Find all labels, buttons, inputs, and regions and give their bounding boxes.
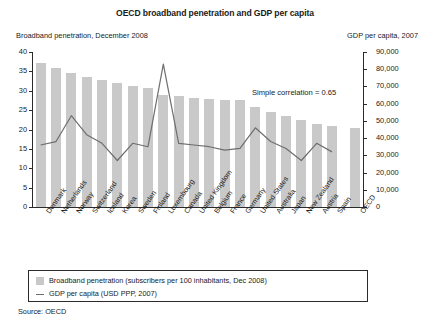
right-axis-line bbox=[363, 52, 364, 207]
right-tick-mark bbox=[364, 121, 367, 122]
left-tick-mark bbox=[29, 52, 32, 53]
right-tick-mark bbox=[364, 138, 367, 139]
right-tick-label: 50,000 bbox=[376, 117, 399, 124]
left-tick-label: 40 bbox=[1, 48, 27, 55]
right-tick-label: 0 bbox=[376, 203, 380, 210]
legend-item-line: GDP per capita (USD PPP, 2007) bbox=[36, 288, 360, 299]
left-tick-label: 20 bbox=[1, 126, 27, 133]
left-tick-label: 0 bbox=[1, 203, 27, 210]
right-tick-mark bbox=[364, 69, 367, 70]
left-tick-mark bbox=[29, 130, 32, 131]
legend-item-bars: Broadband penetration (subscribers per 1… bbox=[36, 275, 360, 286]
right-tick-label: 70,000 bbox=[376, 82, 399, 89]
right-tick-mark bbox=[364, 155, 367, 156]
left-tick-mark bbox=[29, 71, 32, 72]
right-tick-label: 30,000 bbox=[376, 151, 399, 158]
left-tick-label: 30 bbox=[1, 87, 27, 94]
right-tick-mark bbox=[364, 190, 367, 191]
left-tick-mark bbox=[29, 149, 32, 150]
left-tick-label: 5 bbox=[1, 184, 27, 191]
right-tick-label: 10,000 bbox=[376, 186, 399, 193]
legend-label-line: GDP per capita (USD PPP, 2007) bbox=[49, 289, 157, 298]
right-tick-label: 20,000 bbox=[376, 169, 399, 176]
right-tick-mark bbox=[364, 173, 367, 174]
left-tick-label: 10 bbox=[1, 164, 27, 171]
left-tick-mark bbox=[29, 91, 32, 92]
left-tick-mark bbox=[29, 110, 32, 111]
right-tick-mark bbox=[364, 86, 367, 87]
right-tick-mark bbox=[364, 52, 367, 53]
left-tick-mark bbox=[29, 168, 32, 169]
legend-bar-swatch-icon bbox=[36, 277, 44, 285]
x-axis-labels: DenmarkNetherlandsNorwaySwitzerlandIcela… bbox=[33, 208, 373, 266]
right-tick-label: 90,000 bbox=[376, 48, 399, 55]
chart-container: OECD broadband penetration and GDP per c… bbox=[0, 0, 430, 324]
legend-label-bars: Broadband penetration (subscribers per 1… bbox=[49, 276, 267, 285]
chart-title: OECD broadband penetration and GDP per c… bbox=[0, 8, 430, 18]
left-tick-label: 35 bbox=[1, 67, 27, 74]
left-tick-mark bbox=[29, 188, 32, 189]
right-tick-label: 80,000 bbox=[376, 65, 399, 72]
right-tick-label: 60,000 bbox=[376, 100, 399, 107]
legend-line-swatch-icon bbox=[36, 290, 44, 298]
left-axis-caption: Broadband penetration, December 2008 bbox=[16, 31, 148, 40]
source-note: Source: OECD bbox=[18, 307, 66, 316]
left-tick-mark bbox=[29, 207, 32, 208]
right-axis-caption: GDP per capita, 2007 bbox=[347, 31, 418, 40]
chart-legend: Broadband penetration (subscribers per 1… bbox=[28, 270, 368, 302]
left-tick-label: 25 bbox=[1, 106, 27, 113]
correlation-annotation: Simple correlation = 0.65 bbox=[252, 88, 336, 97]
right-tick-label: 40,000 bbox=[376, 134, 399, 141]
right-tick-mark bbox=[364, 104, 367, 105]
left-tick-label: 15 bbox=[1, 145, 27, 152]
